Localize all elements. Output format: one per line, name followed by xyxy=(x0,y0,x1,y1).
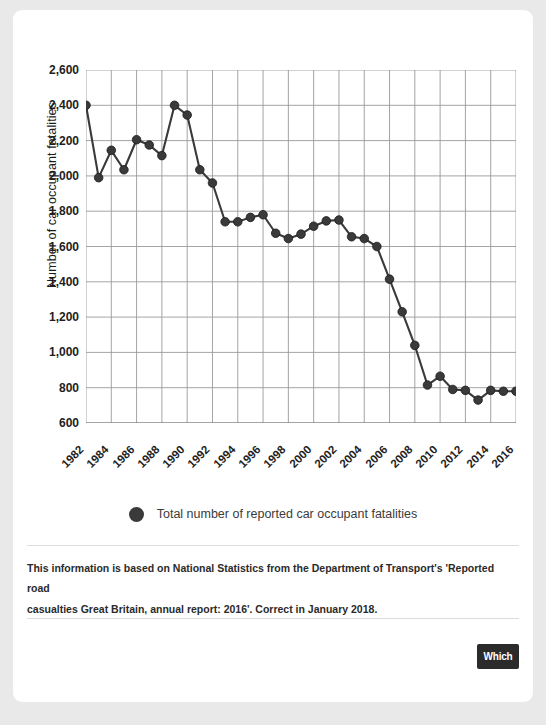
x-axis-tick-label: 1998 xyxy=(261,443,288,470)
x-axis-tick-labels: 1982198419861988199019921994199619982000… xyxy=(86,426,524,486)
line-chart-svg xyxy=(86,70,516,423)
y-axis-tick-label: 2,200 xyxy=(49,134,79,148)
x-axis-tick-label: 2000 xyxy=(287,443,314,470)
series-markers xyxy=(86,101,516,404)
x-axis-tick-label: 1992 xyxy=(186,443,213,470)
y-axis-tick-label: 1,000 xyxy=(49,345,79,359)
x-axis-tick-label: 1996 xyxy=(236,443,263,470)
chart-card: Number of car occupant fatalities 2,6002… xyxy=(13,10,533,702)
y-axis-tick-labels: 2,6002,4002,2002,0001,8001,6001,4001,200… xyxy=(13,70,79,423)
x-axis-tick-label: 2010 xyxy=(413,443,440,470)
x-axis-tick-label: 2006 xyxy=(363,443,390,470)
y-axis-tick-label: 2,600 xyxy=(49,63,79,77)
footnote: This information is based on National St… xyxy=(27,558,519,619)
footnote-line-2: casualties Great Britain, annual report:… xyxy=(27,599,519,619)
x-axis-tick-label: 2008 xyxy=(388,443,415,470)
brand-label: Which xyxy=(484,651,513,662)
y-axis-tick-label: 800 xyxy=(59,381,79,395)
y-axis-tick-label: 2,000 xyxy=(49,169,79,183)
plot-area xyxy=(86,70,516,423)
x-axis-tick-label: 2014 xyxy=(464,443,491,470)
x-axis-tick-label: 2016 xyxy=(489,443,516,470)
chart-container: Number of car occupant fatalities 2,6002… xyxy=(13,10,533,490)
page-background: Number of car occupant fatalities 2,6002… xyxy=(0,0,546,725)
horizontal-gridlines xyxy=(86,70,516,423)
x-axis-tick-label: 2002 xyxy=(312,443,339,470)
divider-bottom xyxy=(27,618,519,619)
y-axis-tick-label: 600 xyxy=(59,416,79,430)
x-axis-tick-label: 2004 xyxy=(337,443,364,470)
x-axis-tick-label: 1984 xyxy=(84,443,111,470)
chart-legend: Total number of reported car occupant fa… xyxy=(13,497,533,531)
footnote-line-1: This information is based on National St… xyxy=(27,558,519,599)
x-axis-tick-label: 1986 xyxy=(110,443,137,470)
x-axis-tick-label: 1982 xyxy=(59,443,86,470)
brand-badge: Which xyxy=(477,644,519,669)
x-axis-tick-label: 1990 xyxy=(160,443,187,470)
y-axis-tick-label: 1,200 xyxy=(49,310,79,324)
y-axis-tick-label: 1,400 xyxy=(49,275,79,289)
x-axis-tick-label: 1994 xyxy=(211,443,238,470)
divider-top xyxy=(27,545,519,546)
x-axis-tick-label: 2012 xyxy=(439,443,466,470)
legend-label: Total number of reported car occupant fa… xyxy=(157,507,418,521)
y-axis-tick-label: 2,400 xyxy=(49,98,79,112)
filled-circle-icon xyxy=(129,507,144,522)
y-axis-tick-label: 1,600 xyxy=(49,240,79,254)
y-axis-tick-label: 1,800 xyxy=(49,204,79,218)
x-axis-tick-label: 1988 xyxy=(135,443,162,470)
